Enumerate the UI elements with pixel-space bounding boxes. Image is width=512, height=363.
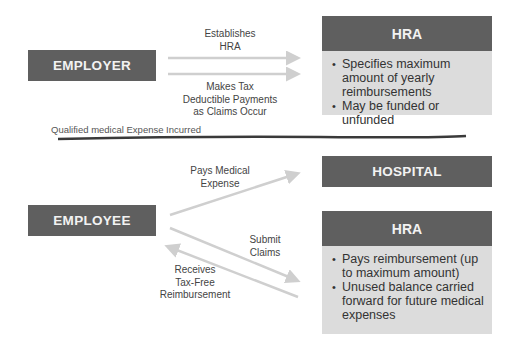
employer-box: EMPLOYER: [28, 50, 156, 81]
divider-line: [58, 136, 466, 139]
label-submit-claims: Submit Claims: [235, 234, 295, 259]
hra-box-bottom: HRA Pays reimbursement (up to maximum am…: [322, 211, 492, 334]
hra-bullet: Specifies maximum amount of yearly reimb…: [332, 57, 486, 99]
label-establishes-hra: Establishes HRA: [180, 28, 280, 53]
hra-header: HRA: [322, 16, 492, 51]
employer-label: EMPLOYER: [53, 58, 131, 73]
hra-body: Specifies maximum amount of yearly reimb…: [322, 51, 492, 133]
hospital-label: HOSPITAL: [372, 164, 442, 179]
hra-bullet: Unused balance carried forward for futur…: [332, 280, 486, 322]
hra-box-top: HRA Specifies maximum amount of yearly r…: [322, 16, 492, 115]
hra-bullet: May be funded or unfunded: [332, 99, 486, 127]
hra-body: Pays reimbursement (up to maximum amount…: [322, 246, 492, 328]
hra-title: HRA: [392, 26, 422, 42]
hospital-box: HOSPITAL: [322, 156, 492, 187]
label-tax-deductible-payments: Makes Tax Deductible Payments as Claims …: [170, 81, 290, 119]
hra-bullet: Pays reimbursement (up to maximum amount…: [332, 252, 486, 280]
employee-label: EMPLOYEE: [53, 213, 130, 228]
hra-header: HRA: [322, 211, 492, 246]
label-receives-reimbursement: Receives Tax-Free Reimbursement: [140, 264, 250, 302]
hra-title: HRA: [392, 221, 422, 237]
divider-label: Qualified medical Expense Incurred: [51, 124, 201, 135]
label-pays-medical-expense: Pays Medical Expense: [180, 165, 260, 190]
employee-box: EMPLOYEE: [28, 205, 156, 236]
